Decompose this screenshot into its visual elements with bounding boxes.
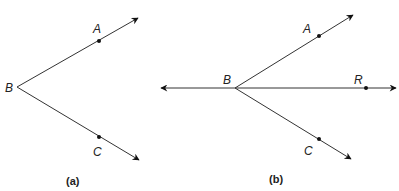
ray-ba <box>17 18 138 87</box>
point-a <box>97 39 101 43</box>
point-r <box>364 86 368 90</box>
ray-ba <box>235 15 353 88</box>
ray-bc <box>235 88 351 159</box>
figure-a: A B C (a) <box>5 18 139 187</box>
label-b: B <box>223 73 231 87</box>
caption-a: (a) <box>66 175 80 187</box>
point-c <box>317 137 321 141</box>
angle-diagram: A B C (a) A B R C (b) <box>0 0 399 191</box>
figure-b: A B R C (b) <box>161 15 396 185</box>
label-a: A <box>92 22 101 36</box>
label-c: C <box>93 145 102 159</box>
label-a: A <box>302 22 311 36</box>
caption-b: (b) <box>269 173 283 185</box>
point-c <box>97 135 101 139</box>
ray-bc <box>17 87 139 160</box>
point-a <box>317 34 321 38</box>
label-c: C <box>304 144 313 158</box>
label-b: B <box>5 81 13 95</box>
label-r: R <box>354 73 363 87</box>
